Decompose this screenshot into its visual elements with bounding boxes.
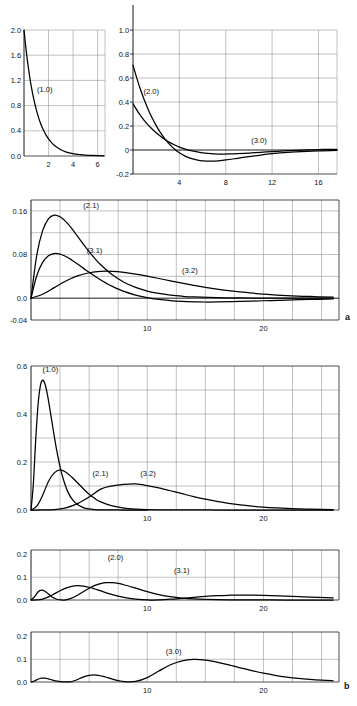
y-tick-label: 0 bbox=[125, 146, 129, 155]
y-tick-label: 0.0 bbox=[17, 678, 27, 687]
y-tick-label: 0.2 bbox=[17, 458, 27, 467]
x-tick-label: 10 bbox=[143, 604, 151, 613]
y-tick-label: -0.04 bbox=[10, 316, 27, 325]
data-curve bbox=[31, 215, 333, 298]
y-tick-label: 0.6 bbox=[119, 74, 129, 83]
x-tick-label: 4 bbox=[177, 178, 181, 187]
data-curve bbox=[31, 659, 333, 682]
y-tick-label: 0.08 bbox=[13, 250, 27, 259]
chart-panel-5-svg: 0.00.10.21020(2.0)(3.1) bbox=[0, 542, 357, 620]
y-tick-label: 2.0 bbox=[11, 26, 21, 35]
data-curve bbox=[31, 484, 333, 510]
x-tick-label: 4 bbox=[71, 160, 75, 169]
y-tick-label: 0.2 bbox=[17, 632, 27, 641]
curve-label: (2.0) bbox=[143, 87, 159, 96]
x-tick-label: 20 bbox=[259, 324, 267, 333]
y-tick-label: 0.2 bbox=[17, 550, 27, 559]
chart-panel-6-svg: 0.00.10.21020(3.0) bbox=[0, 624, 357, 706]
chart-panel-4-svg: 0.00.20.40.61020(1.0)(2.1)(3.2) bbox=[0, 358, 357, 536]
x-tick-label: 10 bbox=[143, 686, 151, 695]
curve-label: (2.1) bbox=[83, 201, 99, 210]
y-tick-label: -0.2 bbox=[116, 170, 129, 179]
chart-panel-1-svg: 0.00.40.81.21.62.0246(1.0) bbox=[0, 0, 110, 190]
y-tick-label: 0.8 bbox=[119, 50, 129, 59]
y-tick-label: 0.0 bbox=[17, 294, 27, 303]
chart-panel-1: 0.00.40.81.21.62.0246(1.0) bbox=[0, 0, 110, 190]
part-label-b: b bbox=[344, 681, 350, 691]
chart-panel-3: -0.040.00.080.161020(2.1)(3.1)(3.2) bbox=[0, 192, 357, 337]
curve-label: (2.0) bbox=[108, 553, 124, 562]
y-tick-label: 0.6 bbox=[17, 362, 27, 371]
curve-label: (3.0) bbox=[251, 136, 267, 145]
y-tick-label: 0.8 bbox=[11, 101, 21, 110]
chart-panel-2-svg: -0.200.20.40.60.81.0481216(2.0)(3.0) bbox=[100, 0, 357, 190]
y-tick-label: 0.1 bbox=[17, 655, 27, 664]
y-tick-label: 1.0 bbox=[119, 26, 129, 35]
x-tick-label: 2 bbox=[46, 160, 50, 169]
chart-panel-3-svg: -0.040.00.080.161020(2.1)(3.1)(3.2) bbox=[0, 192, 357, 337]
chart-panel-4: 0.00.20.40.61020(1.0)(2.1)(3.2) bbox=[0, 358, 357, 536]
curve-label: (2.1) bbox=[93, 469, 109, 478]
curve-label: (3.1) bbox=[174, 566, 190, 575]
y-tick-label: 0.4 bbox=[119, 98, 129, 107]
part-label-a: a bbox=[345, 312, 350, 322]
y-tick-label: 0.0 bbox=[11, 152, 21, 161]
x-tick-label: 20 bbox=[259, 514, 267, 523]
curve-label: (1.0) bbox=[37, 85, 53, 94]
x-tick-label: 10 bbox=[143, 324, 151, 333]
x-tick-label: 12 bbox=[268, 178, 276, 187]
y-tick-label: 1.6 bbox=[11, 51, 21, 60]
data-curve bbox=[31, 586, 333, 600]
curve-label: (3.2) bbox=[182, 266, 198, 275]
radial-wavefunction-figure: 0.00.40.81.21.62.0246(1.0) -0.200.20.40.… bbox=[0, 0, 357, 706]
y-tick-label: 0.4 bbox=[17, 410, 27, 419]
chart-panel-5: 0.00.10.21020(2.0)(3.1) bbox=[0, 542, 357, 620]
curve-label: (3.2) bbox=[140, 469, 156, 478]
data-curve bbox=[133, 104, 337, 154]
x-tick-label: 16 bbox=[314, 178, 322, 187]
x-tick-label: 8 bbox=[224, 178, 228, 187]
x-tick-label: 20 bbox=[259, 604, 267, 613]
y-tick-label: 0.4 bbox=[11, 126, 21, 135]
y-tick-label: 0.0 bbox=[17, 596, 27, 605]
x-tick-label: 10 bbox=[143, 514, 151, 523]
y-tick-label: 1.2 bbox=[11, 76, 21, 85]
y-tick-label: 0.1 bbox=[17, 573, 27, 582]
chart-panel-2: -0.200.20.40.60.81.0481216(2.0)(3.0) bbox=[100, 0, 357, 190]
y-tick-label: 0.2 bbox=[119, 122, 129, 131]
chart-panel-6: 0.00.10.21020(3.0) bbox=[0, 624, 357, 706]
y-tick-label: 0.0 bbox=[17, 506, 27, 515]
curve-label: (1.0) bbox=[43, 365, 59, 374]
data-curve bbox=[31, 271, 333, 298]
data-curve bbox=[133, 65, 337, 161]
x-tick-label: 20 bbox=[259, 686, 267, 695]
curve-label: (3.1) bbox=[87, 246, 103, 255]
y-tick-label: 0.16 bbox=[13, 207, 27, 216]
curve-label: (3.0) bbox=[166, 647, 182, 656]
data-curve bbox=[31, 253, 333, 302]
